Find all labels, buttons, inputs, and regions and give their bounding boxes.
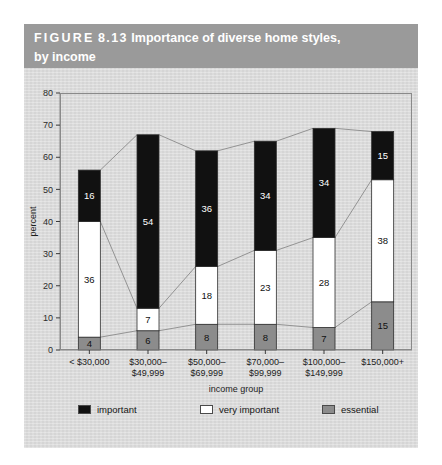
legend-item-essential[interactable]: essential <box>322 404 379 415</box>
x-tick-label: $70,000– <box>247 357 285 367</box>
bar-value-label: 16 <box>84 190 95 201</box>
bar-value-label: 15 <box>377 320 388 331</box>
bar-value-label: 23 <box>260 282 271 293</box>
x-axis: < $30,000$30,000–$49,999$50,000–$69,999$… <box>60 350 412 394</box>
y-tick-label: 0 <box>48 345 53 355</box>
x-tick-label: $69,999 <box>190 368 223 378</box>
legend-label: very important <box>219 404 279 415</box>
x-tick-label: $49,999 <box>132 368 165 378</box>
bar-value-label: 28 <box>319 277 330 288</box>
bar-value-label: 8 <box>263 332 268 343</box>
legend-swatch-icon <box>78 405 91 414</box>
x-axis-title: income group <box>209 384 264 394</box>
figure-container: FIGURE 8.13 Importance of diverse home s… <box>0 0 442 465</box>
legend-label: essential <box>341 404 379 415</box>
bar-value-label: 4 <box>87 338 92 349</box>
legend-swatch-icon <box>322 405 335 414</box>
y-tick-label: 40 <box>43 217 53 227</box>
legend-swatch-icon <box>200 405 213 414</box>
y-tick-label: 80 <box>43 88 53 98</box>
legend-item-important[interactable]: important <box>78 404 137 415</box>
bars <box>78 128 393 350</box>
bar-value-label: 15 <box>377 150 388 161</box>
y-tick-label: 30 <box>43 249 53 259</box>
bar-value-label: 38 <box>377 235 388 246</box>
x-tick-label: < $30,000 <box>69 357 109 367</box>
x-tick-label: $150,000+ <box>361 357 404 367</box>
y-tick-label: 70 <box>43 120 53 130</box>
x-tick-label: $100,000– <box>303 357 346 367</box>
y-tick-label: 10 <box>43 313 53 323</box>
bar-value-label: 34 <box>260 190 271 201</box>
y-tick-label: 60 <box>43 152 53 162</box>
x-tick-label: $30,000– <box>129 357 167 367</box>
x-tick-label: $99,999 <box>249 368 282 378</box>
legend-item-very-important[interactable]: very important <box>200 404 279 415</box>
y-tick-label: 50 <box>43 185 53 195</box>
bar-value-label: 54 <box>143 216 154 227</box>
bar-value-label: 8 <box>204 332 209 343</box>
x-tick-label: $50,000– <box>188 357 226 367</box>
chart-legend: importantvery importantessential <box>60 404 412 420</box>
legend-label: important <box>97 404 137 415</box>
y-axis-title: percent <box>28 206 38 237</box>
y-tick-label: 20 <box>43 281 53 291</box>
bar-value-label: 34 <box>319 177 330 188</box>
bar-value-label: 18 <box>201 290 212 301</box>
stacked-bar-chart: 01020304050607080percent 436166754818368… <box>0 0 442 465</box>
y-axis: 01020304050607080percent <box>28 88 60 355</box>
bar-value-labels: 436166754818368233472834153815 <box>84 150 388 349</box>
bar-value-label: 36 <box>201 203 212 214</box>
bar-value-label: 7 <box>321 333 326 344</box>
bar-value-label: 36 <box>84 274 95 285</box>
bar-value-label: 6 <box>145 335 150 346</box>
x-tick-label: $149,999 <box>305 368 343 378</box>
bar-value-label: 7 <box>145 314 150 325</box>
